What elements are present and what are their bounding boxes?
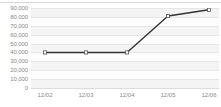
plot-area [31,8,219,88]
data-point-marker[interactable] [125,51,128,54]
x-axis-line [31,88,219,89]
x-axis-tick-label: 12/06 [201,91,216,99]
x-axis-tick-label: 12/04 [119,91,134,99]
x-axis: 12/0212/0312/0412/0512/06 [31,91,219,103]
data-point-marker[interactable] [43,51,46,54]
y-axis-tick-label: 20,000 [0,67,28,73]
data-point-marker[interactable] [207,8,210,11]
y-axis: 90,00080,00070,00060,00050,00040,00030,0… [0,8,30,88]
y-axis-tick-label: 40,000 [0,49,28,55]
y-axis-tick-label: 50,000 [0,41,28,47]
y-axis-tick-label: 60,000 [0,32,28,38]
x-axis-tick-label: 12/02 [37,91,52,99]
chart-top-border [0,2,221,3]
data-point-marker[interactable] [166,14,169,17]
series-line-group [31,8,219,88]
series-line [45,10,209,53]
y-axis-tick-label: 90,000 [0,5,28,11]
line-chart: 90,00080,00070,00060,00050,00040,00030,0… [0,0,221,107]
y-axis-tick-label: 80,000 [0,14,28,20]
y-axis-tick-label: 0 [0,85,28,91]
x-axis-tick-label: 12/05 [160,91,175,99]
x-axis-tick-label: 12/03 [78,91,93,99]
y-axis-tick-label: 70,000 [0,23,28,29]
data-point-marker[interactable] [84,51,87,54]
y-axis-tick-label: 10,000 [0,76,28,82]
y-axis-tick-label: 30,000 [0,58,28,64]
